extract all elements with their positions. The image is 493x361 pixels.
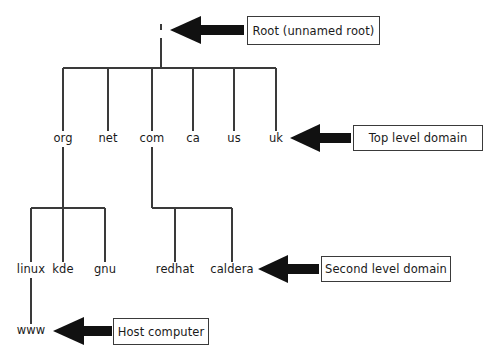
tld-node-us: us: [227, 133, 240, 145]
callout-arrows: [53, 16, 351, 345]
callout-label-host-computer: Host computer: [112, 325, 211, 339]
second-level-node-redhat: redhat: [156, 264, 194, 276]
callout-box-top-level-domain: Top level domain: [353, 125, 483, 151]
second-level-node-kde: kde: [52, 264, 73, 276]
callout-label-second-level-domain: Second level domain: [319, 262, 453, 276]
tld-node-net: net: [98, 133, 117, 145]
tld-node-uk: uk: [269, 133, 283, 145]
tld-node-com: com: [140, 133, 165, 145]
second-level-node-gnu: gnu: [94, 264, 116, 276]
callout-label-top-level-domain: Top level domain: [363, 131, 474, 145]
tree-connector-canvas: [0, 0, 493, 361]
callout-box-second-level-domain: Second level domain: [321, 256, 451, 282]
second-level-node-caldera: caldera: [210, 264, 253, 276]
callout-box-host-computer: Host computer: [113, 318, 209, 345]
tld-node-ca: ca: [186, 133, 200, 145]
callout-label-root: Root (unnamed root): [247, 24, 381, 38]
callout-box-root: Root (unnamed root): [247, 16, 380, 45]
root-callout-arrow: [170, 16, 244, 44]
tld-callout-arrow: [290, 124, 351, 152]
host-callout-arrow: [53, 317, 112, 345]
dns-hierarchy-diagram: . org net com ca us uk linux kde gnu red…: [0, 0, 493, 361]
second-callout-arrow: [258, 255, 319, 283]
tld-node-org: org: [53, 133, 72, 145]
second-level-node-linux: linux: [17, 264, 45, 276]
host-node-www: www: [17, 325, 46, 337]
